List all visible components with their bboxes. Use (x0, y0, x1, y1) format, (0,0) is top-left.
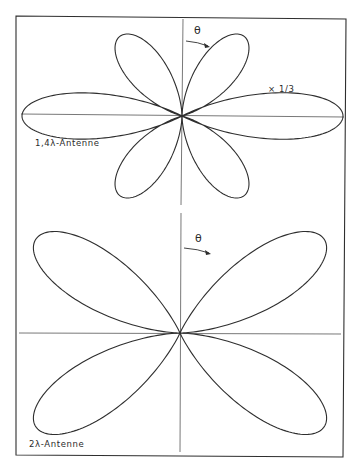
top-panel-label: 1,4λ-Antenne (35, 138, 100, 148)
bottom-theta-arrowhead-icon (205, 250, 211, 255)
top-theta-label: θ (194, 24, 201, 37)
bottom-panel-2-lambda (19, 213, 341, 452)
top-scale-note: × 1/3 (268, 84, 295, 94)
top-panel-1-4-lambda (21, 19, 344, 205)
bottom-panel-label: 2λ-Antenne (29, 439, 84, 449)
radiation-pattern-figure (0, 0, 359, 469)
top-theta-arrowhead-icon (204, 43, 210, 48)
bottom-theta-label: θ (195, 232, 202, 245)
